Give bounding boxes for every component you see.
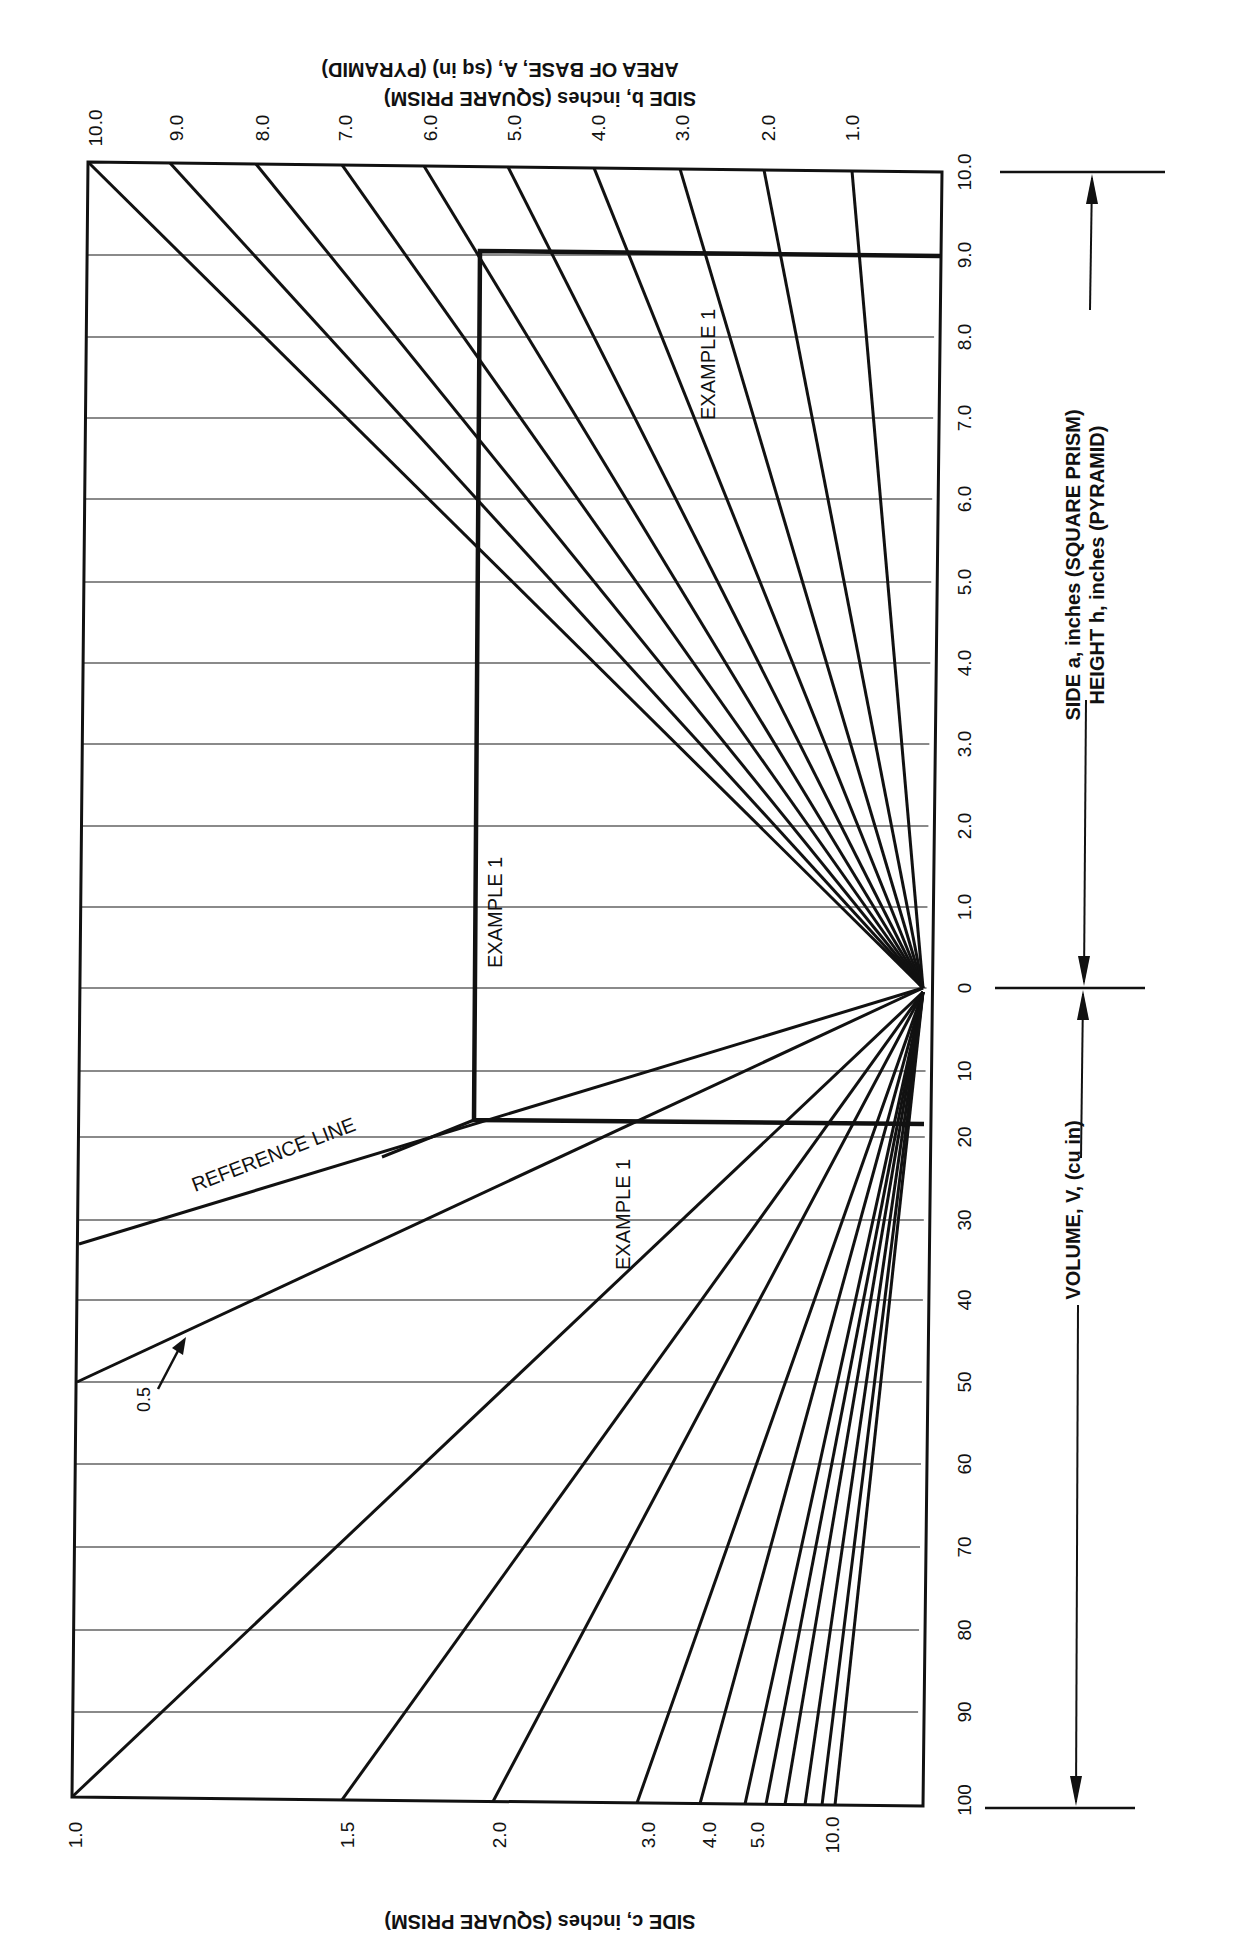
top-axis-label-area: AREA OF BASE, A, (sq in) (PYRAMID) <box>321 59 678 81</box>
top-tick-label: 6.0 <box>420 115 441 141</box>
bottom-tick-label: 4.0 <box>699 1822 720 1848</box>
b-scale-line <box>594 168 923 988</box>
c-scale-line <box>822 992 923 1805</box>
right-lower-tick-label: 40 <box>954 1289 975 1310</box>
example-1-path <box>382 251 940 1157</box>
right-lower-tick-label: 50 <box>954 1371 975 1392</box>
bottom-tick-label: 5.0 <box>747 1822 768 1848</box>
right-upper-tick-label: 2.0 <box>954 813 975 839</box>
arrow-head-icon <box>1086 174 1098 204</box>
arrow-head-icon <box>172 1337 186 1355</box>
right-lower-tick-label: 80 <box>954 1619 975 1640</box>
c-scale-line <box>72 992 923 1797</box>
right-lower-tick-label: 20 <box>954 1126 975 1147</box>
annotations: REFERENCE LINEEXAMPLE 1EXAMPLE 1EXAMPLE … <box>134 309 719 1412</box>
example-1-reference-connector <box>382 1120 474 1157</box>
c-scale-line <box>766 992 923 1804</box>
right-lower-tick-label: 90 <box>954 1701 975 1722</box>
example-1-label-middle: EXAMPLE 1 <box>484 857 506 968</box>
right-upper-tick-label: 1.0 <box>954 894 975 920</box>
right-upper-tick-label: 10.0 <box>954 154 975 191</box>
reference-line <box>79 988 923 1244</box>
arrow-head-icon <box>1077 990 1089 1020</box>
right-lower-tick-label: 70 <box>954 1536 975 1557</box>
arrow-shaft <box>1084 700 1086 982</box>
top-tick-label: 5.0 <box>504 115 525 141</box>
bottom-tick-label: 1.0 <box>65 1822 86 1848</box>
c-scale-line <box>805 992 923 1805</box>
right-upper-tick-label: 9.0 <box>954 242 975 268</box>
c-0.5-label: 0.5 <box>134 1387 154 1412</box>
right-axis-label-height-h: HEIGHT h, inches (PYRAMID) <box>1086 426 1108 705</box>
arrow-shaft <box>1076 1305 1078 1802</box>
bottom-tick-label: 1.5 <box>337 1822 358 1848</box>
right-upper-tick-label: 4.0 <box>954 650 975 676</box>
b-scale-line <box>256 164 923 988</box>
example-1-label-upper: EXAMPLE 1 <box>697 309 719 420</box>
b-scale-line <box>170 163 923 988</box>
b-scale-line <box>764 170 923 988</box>
reference-line-label: REFERENCE LINE <box>189 1113 359 1196</box>
top-tick-label: 1.0 <box>842 115 863 141</box>
bottom-tick-label: 3.0 <box>638 1822 659 1848</box>
right-lower-tick-label: 30 <box>954 1209 975 1230</box>
fan-lines <box>72 162 923 1805</box>
arrow-head-icon <box>1070 1776 1082 1806</box>
arrow-head-icon <box>1078 956 1090 986</box>
right-upper-tick-label: 7.0 <box>954 405 975 431</box>
right-lower-tick-label: 60 <box>954 1453 975 1474</box>
right-upper-tick-label: 8.0 <box>954 324 975 350</box>
top-tick-label: 2.0 <box>758 115 779 141</box>
top-tick-label: 7.0 <box>335 115 356 141</box>
bottom-tick-label: 2.0 <box>489 1822 510 1848</box>
right-upper-tick-label: 3.0 <box>954 731 975 757</box>
right-lower-tick-label: 10 <box>954 1060 975 1081</box>
top-tick-label: 3.0 <box>672 115 693 141</box>
right-upper-tick-label: 5.0 <box>954 569 975 595</box>
top-tick-label: 8.0 <box>252 115 273 141</box>
top-tick-label: 10.0 <box>85 110 106 147</box>
example-1-label-lower: EXAMPLE 1 <box>612 1159 634 1270</box>
right-lower-tick-label: 100 <box>954 1784 975 1816</box>
b-scale-line <box>342 165 923 988</box>
bottom-axis-label-side-c: SIDE c, inches (SQUARE PRISM) <box>384 1911 695 1933</box>
c-scale-line <box>785 992 923 1805</box>
tick-labels: 10.09.08.07.06.05.04.03.02.01.010.09.08.… <box>65 110 975 1854</box>
top-tick-label: 9.0 <box>166 115 187 141</box>
right-upper-tick-label: 6.0 <box>954 486 975 512</box>
bottom-tick-label: 10.0 <box>822 1817 843 1854</box>
right-upper-tick-label: 0 <box>954 983 975 994</box>
right-axis-label-side-a: SIDE a, inches (SQUARE PRISM) <box>1062 409 1084 720</box>
gridlines <box>73 255 935 1712</box>
top-tick-label: 4.0 <box>588 115 609 141</box>
c-scale-line <box>700 992 923 1804</box>
top-axis-label-side-b: SIDE b, inches (SQUARE PRISM) <box>384 88 696 110</box>
c-scale-line <box>493 992 923 1801</box>
nomograph-chart: 10.09.08.07.06.05.04.03.02.01.010.09.08.… <box>0 0 1240 1952</box>
